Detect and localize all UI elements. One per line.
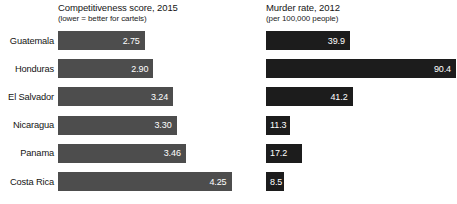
murder-rate-value: 90.4 — [434, 64, 451, 74]
chart-row: Honduras2.9090.4 — [0, 59, 457, 78]
chart-row: Panama3.4617.2 — [0, 144, 457, 163]
competitiveness-value: 3.24 — [151, 92, 168, 102]
row-label-el-salvador: El Salvador — [0, 92, 54, 102]
chart-row: Guatemala2.7539.9 — [0, 31, 457, 50]
murder-rate-bar: 39.9 — [266, 31, 350, 50]
competitiveness-bar: 2.90 — [58, 59, 153, 78]
competitiveness-value: 2.90 — [131, 64, 148, 74]
panel-subtitle-murder-rate: (per 100,000 people) — [266, 15, 340, 24]
row-label-guatemala: Guatemala — [0, 36, 54, 46]
chart-row: El Salvador3.2441.2 — [0, 87, 457, 106]
chart-row: Nicaragua3.3011.3 — [0, 116, 457, 135]
paired-bar-chart: Competitiveness score, 2015 (lower = bet… — [0, 0, 457, 204]
row-label-honduras: Honduras — [0, 64, 54, 74]
murder-rate-value: 17.2 — [270, 148, 287, 158]
competitiveness-value: 3.30 — [154, 120, 171, 130]
panel-title-competitiveness: Competitiveness score, 2015 — [58, 3, 178, 14]
panel-subtitle-competitiveness: (lower = better for cartels) — [58, 15, 178, 24]
murder-rate-bar: 11.3 — [266, 116, 290, 135]
competitiveness-value: 4.25 — [209, 177, 226, 187]
chart-row: Costa Rica4.258.5 — [0, 172, 457, 191]
murder-rate-bar: 8.5 — [266, 172, 284, 191]
row-label-nicaragua: Nicaragua — [0, 120, 54, 130]
competitiveness-bar: 3.46 — [58, 144, 186, 163]
murder-rate-bar: 41.2 — [266, 87, 353, 106]
competitiveness-bar: 3.24 — [58, 87, 173, 106]
competitiveness-value: 3.46 — [164, 148, 181, 158]
murder-rate-value: 39.9 — [328, 36, 345, 46]
panel-header-murder-rate: Murder rate, 2012 (per 100,000 people) — [266, 3, 340, 24]
murder-rate-value: 8.5 — [270, 177, 282, 187]
murder-rate-value: 41.2 — [330, 92, 347, 102]
murder-rate-bar: 90.4 — [266, 59, 456, 78]
panel-header-competitiveness: Competitiveness score, 2015 (lower = bet… — [58, 3, 178, 24]
panel-title-murder-rate: Murder rate, 2012 — [266, 3, 340, 14]
competitiveness-bar: 3.30 — [58, 116, 177, 135]
competitiveness-bar: 2.75 — [58, 31, 145, 50]
murder-rate-bar: 17.2 — [266, 144, 302, 163]
row-label-panama: Panama — [0, 148, 54, 158]
competitiveness-bar: 4.25 — [58, 172, 232, 191]
row-label-costa-rica: Costa Rica — [0, 177, 54, 187]
murder-rate-value: 11.3 — [270, 120, 286, 130]
competitiveness-value: 2.75 — [123, 36, 140, 46]
